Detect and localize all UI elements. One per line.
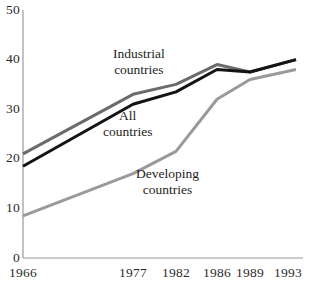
- y-tick-label-20: 20: [0, 151, 20, 165]
- x-tick-label-1989: 1989: [230, 266, 270, 280]
- series-annotation-all-line1: All: [119, 108, 136, 123]
- series-annotation-industrial-line2: countries: [113, 62, 165, 78]
- y-tick-label-0: 0: [0, 251, 20, 265]
- series-annotation-all-line2: countries: [103, 124, 153, 140]
- chart-plot-area: [0, 0, 309, 291]
- series-annotation-industrial-countries: Industrial countries: [113, 46, 165, 78]
- series-annotation-industrial-line1: Industrial: [113, 46, 165, 61]
- y-tick-label-40: 40: [0, 52, 20, 66]
- x-tick-label-1993: 1993: [268, 266, 308, 280]
- series-annotation-all-countries: All countries: [103, 108, 153, 140]
- x-tick-label-1977: 1977: [113, 266, 153, 280]
- line-chart: 50 40 30 20 10 0 1966 1977 1982 1986 198…: [0, 0, 309, 291]
- y-tick-label-30: 30: [0, 102, 20, 116]
- y-tick-label-10: 10: [0, 201, 20, 215]
- series-annotation-developing-countries: Developing countries: [136, 166, 199, 198]
- y-tick-label-50: 50: [0, 3, 20, 17]
- series-annotation-developing-line2: countries: [136, 182, 199, 198]
- series-annotation-developing-line1: Developing: [136, 166, 199, 181]
- x-tick-label-1966: 1966: [3, 266, 43, 280]
- x-tick-label-1982: 1982: [156, 266, 196, 280]
